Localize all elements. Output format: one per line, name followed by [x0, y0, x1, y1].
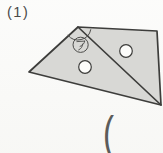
- geometry-figure: [0, 0, 163, 153]
- hole-right: [120, 45, 133, 58]
- hole-left: [79, 61, 92, 74]
- next-problem-partial: (: [103, 110, 114, 153]
- worksheet-page: (1) (: [0, 0, 163, 153]
- quadrilateral-shape: [29, 27, 161, 105]
